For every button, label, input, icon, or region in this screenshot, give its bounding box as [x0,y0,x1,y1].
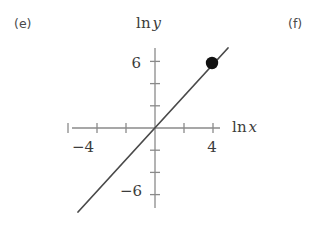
plot-canvas [0,0,311,228]
axes-group [72,48,220,208]
log-log-graph-figure: (e) (f) lny lnx −4 4 6 −6 [0,0,311,228]
data-trend-line [78,48,228,212]
data-point-marker [206,57,218,69]
